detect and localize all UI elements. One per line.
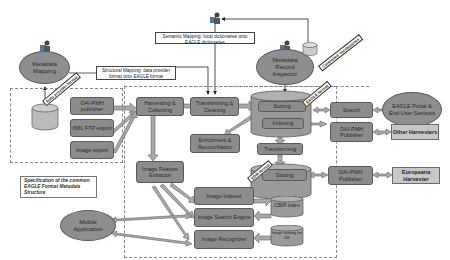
transforming-cleaning: Transforming & Cleaning: [190, 97, 239, 116]
image-indexer: Image Indexer: [194, 187, 254, 205]
image-feature-extractor: Image Feature Extractor: [136, 161, 184, 183]
eagle-format-storage: [250, 90, 312, 138]
image-export: Image export: [70, 141, 114, 159]
user-icon: [210, 12, 220, 24]
image-search-engine: Image Search Engine: [194, 208, 254, 227]
semantic-mapping-note: Semantic Mapping: local dictionaries ont…: [155, 32, 255, 44]
xml-ftp-export: XML FTP export: [70, 119, 114, 137]
eagle-portal: EAGLE Portal & End-User Services: [382, 92, 442, 127]
controlled-vocabularies-database: [302, 42, 318, 56]
specification-note: Specification of the common EAGLE Format…: [20, 176, 97, 198]
harvesting-collecting: Harvesting & Collecting: [136, 97, 184, 116]
aggregator-top-extension: [124, 86, 369, 87]
storing-bottom: Storing: [262, 169, 307, 181]
metadata-mapping: Metadata Mapping: [19, 51, 70, 84]
oai-pmh-publisher-bottom: OAI-PMH Publisher: [328, 166, 373, 185]
oai-pmh-publisher-provider: OAI-PMH publisher: [70, 97, 114, 115]
image-training-database: Image training set DB: [270, 225, 304, 247]
search: Search: [330, 102, 373, 118]
eagle-architecture-diagram: Metadata Mapping Metadata Record Inspect…: [0, 0, 450, 260]
indexing: Indexing: [262, 118, 304, 129]
storing-top: Storing: [258, 101, 306, 112]
data-provider-database: [31, 103, 59, 131]
enrichment-reconciliation: Enrichment & Reconciliation: [190, 134, 240, 153]
mobile-application: Mobile Application: [60, 210, 116, 241]
transforming: Transforming: [257, 143, 303, 155]
structural-mapping-note: Structural Mapping: data provider format…: [96, 66, 176, 80]
oai-pmh-publisher-top: OAI-PMH Publisher: [330, 122, 373, 142]
cbir-index-database: CBIR index: [270, 196, 304, 218]
other-harvesters: Other Harvesters: [391, 124, 439, 140]
image-recognizer: Image Recognizer: [194, 230, 254, 249]
europeana-harvester: Europeana Harvester: [392, 167, 440, 184]
